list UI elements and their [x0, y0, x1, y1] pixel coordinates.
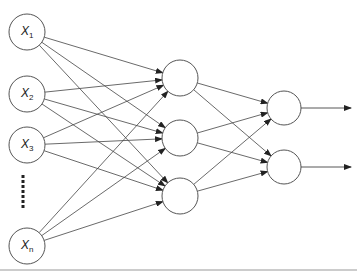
hidden-node-2: [162, 120, 198, 156]
input-ellipsis: [22, 175, 25, 208]
input-node-4: Xn: [9, 228, 45, 264]
ellipsis-dot: [22, 195, 25, 198]
input-node-subscript: 1: [29, 31, 34, 40]
edge-input1-to-hidden1: [44, 37, 163, 73]
edge-hidden1-to-output1: [197, 83, 267, 103]
edge-input3-to-hidden1: [43, 85, 163, 138]
hidden-node-3: [162, 178, 198, 214]
output-node-circle: [267, 91, 301, 125]
hidden-node-circle: [162, 120, 198, 156]
input-node-1: X1: [9, 14, 45, 50]
input-node-2: X2: [9, 76, 45, 112]
hidden-node-circle: [162, 178, 198, 214]
input-node-subscript: n: [29, 245, 33, 254]
edges-group: [39, 37, 271, 240]
edge-hidden3-to-output2: [197, 172, 267, 192]
output-node-circle: [267, 150, 301, 184]
hidden-node-circle: [162, 60, 198, 96]
input-node-3: X3: [9, 127, 45, 163]
ellipsis-dot: [22, 205, 25, 208]
ellipsis-dot: [22, 175, 25, 178]
edge-hidden2-to-output1: [197, 113, 267, 133]
output-node-2: [267, 150, 301, 184]
edge-input2-to-hidden1: [45, 80, 162, 92]
input-node-subscript: 2: [29, 93, 34, 102]
edge-hidden2-to-output2: [197, 143, 267, 163]
ellipsis-dot: [22, 185, 25, 188]
edge-input3-to-hidden2: [45, 139, 162, 144]
ellipsis-dot: [22, 190, 25, 193]
ellipsis-dot: [22, 200, 25, 203]
ellipsis-dot: [22, 180, 25, 183]
hidden-node-1: [162, 60, 198, 96]
edge-input3-to-hidden3: [44, 151, 163, 191]
edge-hidden3-to-output1: [194, 119, 271, 184]
input-node-subscript: 3: [29, 144, 34, 153]
output-node-1: [267, 91, 301, 125]
neural-network-diagram: X1X2X3Xn: [0, 0, 357, 275]
